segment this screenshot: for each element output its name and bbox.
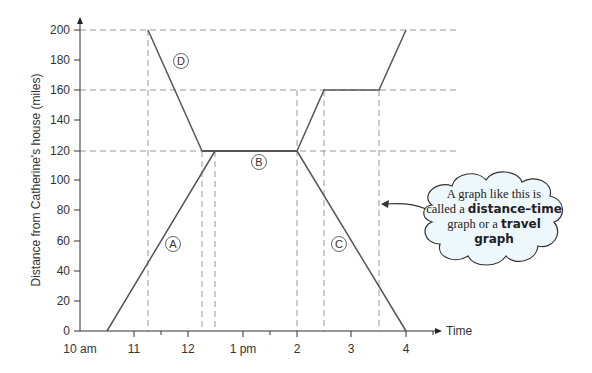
y-ticks bbox=[74, 30, 80, 331]
svg-text:12: 12 bbox=[181, 342, 195, 356]
line-c bbox=[297, 151, 406, 331]
svg-text:3: 3 bbox=[348, 342, 355, 356]
x-axis-arrow-icon bbox=[435, 328, 442, 334]
svg-text:graph: graph bbox=[474, 232, 514, 246]
svg-text:A: A bbox=[169, 238, 177, 250]
svg-text:C: C bbox=[335, 238, 343, 250]
svg-text:60: 60 bbox=[57, 234, 71, 248]
x-tick-labels: 10 am 11 12 1 pm 2 3 4 bbox=[63, 342, 409, 356]
svg-text:graph or a travel: graph or a travel bbox=[447, 217, 541, 231]
axes bbox=[80, 22, 436, 331]
line-a bbox=[107, 151, 215, 331]
callout-arrowhead-icon bbox=[381, 200, 389, 208]
callout-arrow bbox=[386, 204, 426, 209]
svg-text:120: 120 bbox=[50, 144, 70, 158]
svg-text:160: 160 bbox=[50, 83, 70, 97]
svg-text:20: 20 bbox=[57, 294, 71, 308]
svg-text:B: B bbox=[255, 156, 262, 168]
svg-text:40: 40 bbox=[57, 264, 71, 278]
svg-text:200: 200 bbox=[50, 23, 70, 37]
svg-text:180: 180 bbox=[50, 53, 70, 67]
svg-text:80: 80 bbox=[57, 203, 71, 217]
segment-markers: D A B C bbox=[166, 54, 347, 252]
y-tick-labels: 0 20 40 60 80 100 120 140 160 180 200 bbox=[50, 23, 70, 338]
svg-text:called a distance–time: called a distance–time bbox=[426, 202, 562, 216]
svg-text:A graph like this is: A graph like this is bbox=[447, 187, 542, 201]
x-ticks bbox=[134, 331, 433, 337]
svg-text:0: 0 bbox=[63, 324, 70, 338]
distance-time-chart: 0 20 40 60 80 100 120 140 160 180 200 10… bbox=[0, 0, 592, 373]
svg-text:10 am: 10 am bbox=[63, 342, 96, 356]
svg-text:100: 100 bbox=[50, 173, 70, 187]
svg-text:11: 11 bbox=[128, 342, 141, 356]
y-axis-arrow-icon bbox=[77, 17, 83, 24]
svg-text:D: D bbox=[177, 55, 185, 67]
svg-text:2: 2 bbox=[294, 342, 301, 356]
svg-text:4: 4 bbox=[403, 342, 410, 356]
svg-text:1 pm: 1 pm bbox=[230, 342, 257, 356]
svg-text:140: 140 bbox=[50, 113, 70, 127]
data-lines bbox=[107, 30, 406, 331]
x-axis-title: Time bbox=[446, 324, 473, 338]
grid-lines bbox=[80, 30, 460, 331]
y-axis-title: Distance from Catherine's house (miles) bbox=[29, 73, 43, 286]
